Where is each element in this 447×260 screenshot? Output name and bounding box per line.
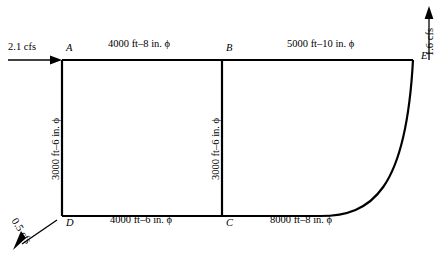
flow-label-inflow-a: 2.1 cfs [8, 41, 36, 53]
pipe-label-b-c: 3000 ft–6 in. ϕ [210, 118, 222, 180]
pipe-label-a-b: 4000 ft–8 in. ϕ [108, 38, 170, 50]
inflow-arrow-a [8, 56, 62, 65]
node-label-c: C [226, 217, 233, 229]
pipe-line-c-e [222, 60, 413, 216]
node-label-a: A [66, 42, 72, 54]
pipe-label-c-e: 8000 ft–8 in. ϕ [270, 214, 332, 226]
figure-caption [30, 246, 420, 258]
flow-label-outflow-e: 1.6 cfs [424, 28, 436, 56]
pipe-network-diagram: A B C D E 4000 ft–8 in. ϕ 5000 ft–10 in.… [0, 0, 447, 260]
pipe-label-a-d: 3000 ft–6 in. ϕ [50, 118, 62, 180]
node-label-b: B [226, 42, 232, 54]
node-label-d: D [66, 217, 74, 229]
pipe-label-b-e: 5000 ft–10 in. ϕ [287, 38, 354, 50]
pipe-label-d-c: 4000 ft–6 in. ϕ [110, 214, 172, 226]
